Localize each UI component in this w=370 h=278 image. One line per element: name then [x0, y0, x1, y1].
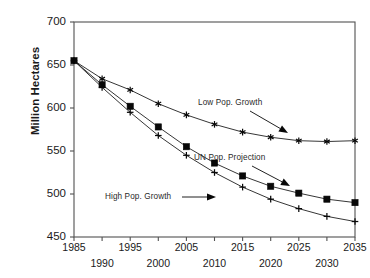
x-tick-label: 2025 — [279, 241, 319, 253]
y-tick-label: 700 — [32, 15, 66, 27]
series-markers — [71, 58, 358, 206]
x-tick-label: 2035 — [335, 241, 370, 253]
annotation-high-pop-growth: High Pop. Growth — [105, 192, 171, 201]
x-tick-label: 2020 — [251, 257, 291, 269]
x-tick-label: 2010 — [195, 257, 235, 269]
x-tick-label: 2015 — [223, 241, 263, 253]
x-tick-label: 1995 — [110, 241, 150, 253]
y-tick-label: 650 — [32, 58, 66, 70]
annotation-un-pop-projection: UN Pop. Projection — [194, 153, 265, 162]
x-tick-label: 2030 — [307, 257, 347, 269]
x-tick-label: 2000 — [138, 257, 178, 269]
annotation-low-pop-growth: Low Pop. Growth — [198, 98, 262, 107]
y-tick-label: 500 — [32, 187, 66, 199]
x-tick-label: 2005 — [166, 241, 206, 253]
y-tick-label: 600 — [32, 101, 66, 113]
x-tick-label: 1985 — [54, 241, 94, 253]
y-tick-label: 550 — [32, 144, 66, 156]
x-tick-label: 1990 — [82, 257, 122, 269]
